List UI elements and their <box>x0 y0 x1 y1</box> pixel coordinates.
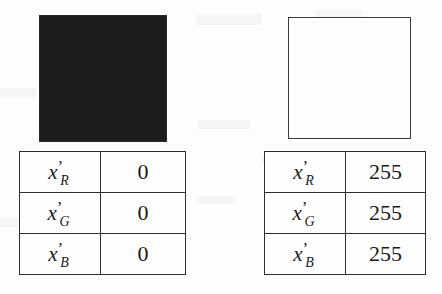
table-row: x’B 0 <box>20 234 186 275</box>
white-rgb-table: x’R 255 x’G 255 x’B 255 <box>264 151 426 275</box>
component-label-cell: x’G <box>20 193 101 234</box>
table-row: x’G 255 <box>265 193 426 234</box>
x-prime-r-symbol: x’R <box>293 162 317 183</box>
component-label-cell: x’R <box>265 152 346 193</box>
component-value-cell: 255 <box>346 193 426 234</box>
symbol-subscript: B <box>305 255 314 270</box>
symbol-subscript: G <box>304 214 314 229</box>
component-value-cell: 0 <box>101 193 186 234</box>
component-label-cell: x’B <box>265 234 346 275</box>
x-prime-r-symbol: x’R <box>48 162 72 183</box>
symbol-subscript: R <box>60 173 69 188</box>
component-value-cell: 0 <box>101 234 186 275</box>
symbol-base: x <box>293 242 302 266</box>
component-value-cell: 255 <box>346 234 426 275</box>
x-prime-b-symbol: x’B <box>293 244 317 265</box>
symbol-base: x <box>48 242 57 266</box>
scan-artifact <box>196 14 262 25</box>
component-value-cell: 0 <box>101 152 186 193</box>
table-row: x’B 255 <box>265 234 426 275</box>
scan-artifact <box>196 196 236 204</box>
scan-artifact <box>198 120 250 129</box>
x-prime-b-symbol: x’B <box>48 244 72 265</box>
component-label-cell: x’B <box>20 234 101 275</box>
component-label-cell: x’G <box>265 193 346 234</box>
black-rgb-table: x’R 0 x’G 0 x’B 0 <box>19 151 186 275</box>
table-row: x’G 0 <box>20 193 186 234</box>
scan-artifact <box>0 88 36 98</box>
symbol-base: x <box>48 160 57 184</box>
symbol-subscript: R <box>305 173 314 188</box>
symbol-base: x <box>47 201 56 225</box>
symbol-base: x <box>292 201 301 225</box>
symbol-base: x <box>293 160 302 184</box>
component-label-cell: x’R <box>20 152 101 193</box>
symbol-subscript: B <box>60 255 69 270</box>
rgb-component-values-figure: x’R 0 x’G 0 x’B 0 <box>0 0 442 294</box>
x-prime-g-symbol: x’G <box>47 203 72 224</box>
x-prime-g-symbol: x’G <box>292 203 317 224</box>
symbol-subscript: G <box>59 214 69 229</box>
white-color-swatch <box>288 17 411 139</box>
table-row: x’R 255 <box>265 152 426 193</box>
scan-artifact <box>0 218 18 227</box>
black-color-swatch <box>40 16 166 141</box>
component-value-cell: 255 <box>346 152 426 193</box>
table-row: x’R 0 <box>20 152 186 193</box>
